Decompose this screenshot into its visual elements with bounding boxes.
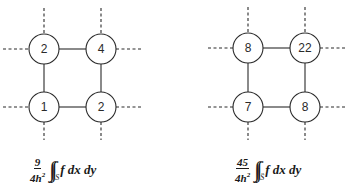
integration-domain: S̈ (260, 173, 264, 182)
formula-right: 45 4h2 ∫∫ S̈ f dx dy (235, 156, 301, 184)
denominator: 4h2 (235, 169, 250, 184)
node-label: 8 (245, 41, 252, 55)
integrand: f dx dy (60, 162, 96, 178)
coefficient-fraction: 45 4h2 (235, 156, 250, 184)
node-label: 8 (302, 100, 309, 114)
denominator-exponent: 2 (42, 171, 46, 179)
stencil-left (3, 8, 143, 140)
denominator-base: 4h (30, 172, 42, 184)
node-label: 22 (298, 41, 312, 55)
stencil-left-labels: 2 4 1 2 (41, 42, 105, 114)
node-label: 7 (245, 100, 252, 114)
stencil-right (208, 7, 347, 140)
formula-left: 9 4h2 ∫∫ S f dx dy (30, 156, 96, 184)
integration-domain: S (55, 173, 59, 182)
node-label: 2 (98, 100, 105, 114)
numerator: 9 (34, 156, 42, 169)
denominator: 4h2 (30, 169, 45, 184)
node-label: 4 (98, 42, 105, 56)
node-label: 1 (41, 100, 48, 114)
stencil-right-labels: 8 22 7 8 (245, 41, 312, 114)
denominator-exponent: 2 (247, 171, 251, 179)
double-integral-icon: ∫∫ (49, 159, 53, 181)
denominator-base: 4h (235, 172, 247, 184)
double-integral-icon: ∫∫ (254, 159, 258, 181)
numerator: 45 (236, 156, 249, 169)
integrand: f dx dy (265, 162, 301, 178)
coefficient-fraction: 9 4h2 (30, 156, 45, 184)
node-label: 2 (41, 42, 48, 56)
